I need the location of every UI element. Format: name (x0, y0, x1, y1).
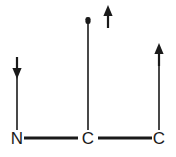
arrow-up-icon (103, 5, 112, 28)
center-stem-cap-icon (85, 17, 90, 24)
atom-label-n: N (11, 129, 23, 148)
arrow-up-icon (154, 43, 163, 66)
arrow-down-icon (12, 57, 21, 79)
chemical-structure-diagram: N C C (0, 0, 176, 157)
atom-label-c1: C (82, 129, 94, 148)
atom-label-c2: C (153, 129, 165, 148)
structure-canvas: N C C (0, 0, 176, 157)
